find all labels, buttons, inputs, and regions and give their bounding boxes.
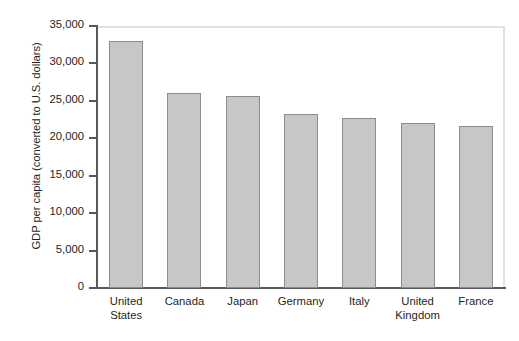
- bar-slot: [330, 26, 388, 288]
- bar: [342, 118, 376, 288]
- y-tick-label: 5,000: [0, 243, 84, 255]
- y-axis-title: GDP per capita (converted to U.S. dollar…: [30, 12, 42, 280]
- y-tick-label: 10,000: [0, 205, 84, 217]
- y-tick-mark: [89, 287, 97, 289]
- x-tick-label-line: Kingdom: [376, 309, 460, 323]
- bar: [226, 96, 260, 288]
- bar-series: [97, 26, 505, 288]
- y-tick-label: 25,000: [0, 93, 84, 105]
- x-tick-label: France: [434, 295, 518, 309]
- bar-slot: [97, 26, 155, 288]
- x-tick-label-line: France: [434, 295, 518, 309]
- y-tick-mark: [89, 100, 97, 102]
- bar-slot: [388, 26, 446, 288]
- bar: [109, 41, 143, 288]
- y-tick-label: 0: [0, 280, 84, 292]
- bar-slot: [272, 26, 330, 288]
- y-tick-mark: [89, 62, 97, 64]
- bar-slot: [447, 26, 505, 288]
- bar: [167, 93, 201, 288]
- y-tick-mark: [89, 137, 97, 139]
- bar-slot: [155, 26, 213, 288]
- bar: [284, 114, 318, 288]
- y-tick-mark: [89, 250, 97, 252]
- y-tick-mark: [89, 212, 97, 214]
- y-tick-mark: [89, 25, 97, 27]
- y-tick-label: 15,000: [0, 168, 84, 180]
- y-tick-label: 30,000: [0, 55, 84, 67]
- bar: [459, 126, 493, 288]
- y-tick-label: 35,000: [0, 18, 84, 30]
- bar-chart: GDP per capita (converted to U.S. dollar…: [0, 0, 519, 341]
- bar: [401, 123, 435, 288]
- y-tick-mark: [89, 175, 97, 177]
- x-tick-label-line: States: [84, 309, 168, 323]
- y-tick-label: 20,000: [0, 130, 84, 142]
- bar-slot: [214, 26, 272, 288]
